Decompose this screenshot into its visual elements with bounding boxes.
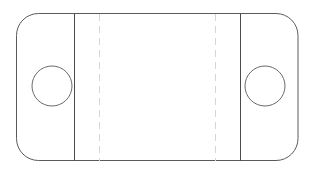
right-circle-feature: [245, 66, 285, 106]
rounded-rectangle-body: [17, 14, 299, 161]
drawing-canvas: [0, 0, 315, 172]
technical-drawing: [0, 0, 315, 172]
left-circle-feature: [32, 66, 72, 106]
